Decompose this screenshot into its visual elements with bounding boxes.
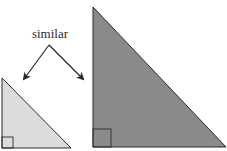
large-triangle-shape (93, 7, 226, 147)
arrow-left-icon (24, 45, 49, 79)
large-triangle (93, 7, 226, 147)
small-triangle-shape (2, 78, 71, 148)
small-triangle (2, 78, 71, 148)
similar-label: similar (32, 26, 69, 41)
arrow-right-icon (49, 45, 83, 79)
arrows (24, 45, 83, 79)
similar-triangles-diagram: similar (0, 0, 227, 151)
